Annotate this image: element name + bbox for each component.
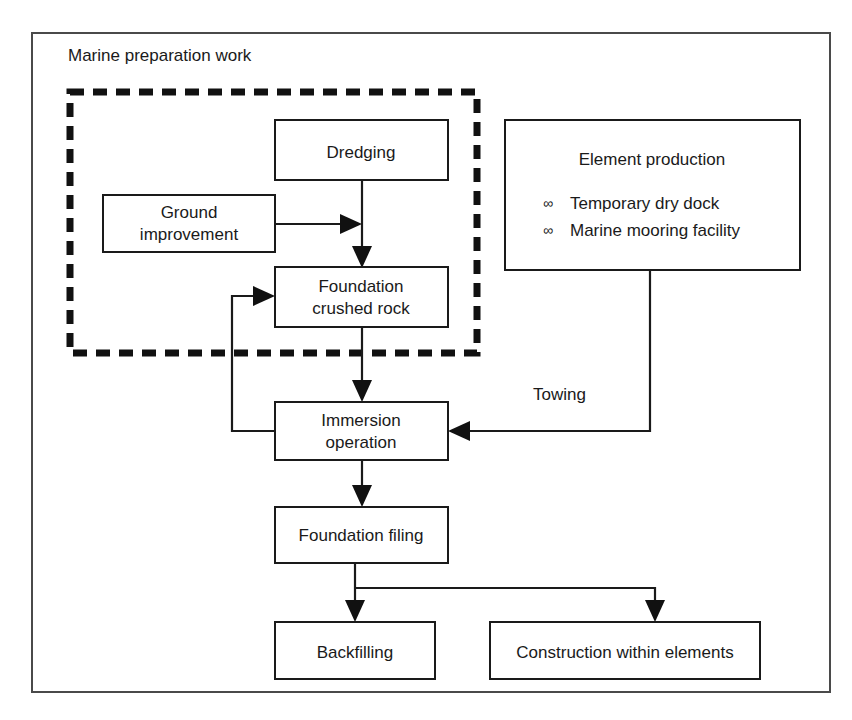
process-flow-diagram: Marine preparation work Towing: [0, 0, 852, 720]
node-ground-improvement-label-line2: improvement: [140, 225, 239, 244]
node-element-production-item-2: Marine mooring facility: [570, 221, 741, 240]
node-dredging-label: Dredging: [327, 143, 396, 162]
diagram-canvas: Marine preparation work Towing: [0, 0, 852, 720]
infinity-bullet-icon-2: ∞: [543, 222, 553, 238]
section-title: Marine preparation work: [68, 46, 252, 65]
node-foundation-crushed-rock-label-line2: crushed rock: [312, 299, 410, 318]
node-immersion-operation-label-line1: Immersion: [321, 411, 400, 430]
node-foundation-crushed-rock-label-line1: Foundation: [318, 277, 403, 296]
node-immersion-operation-label-line2: operation: [326, 433, 397, 452]
node-foundation-filing-label: Foundation filing: [299, 526, 424, 545]
node-ground-improvement-label-line1: Ground: [161, 203, 218, 222]
node-backfilling-label: Backfilling: [317, 643, 394, 662]
edge-label-towing: Towing: [533, 385, 586, 404]
node-element-production-title: Element production: [579, 150, 725, 169]
infinity-bullet-icon: ∞: [543, 195, 553, 211]
node-construction-within-elements-label: Construction within elements: [516, 643, 733, 662]
node-foundation-crushed-rock[interactable]: [275, 267, 448, 327]
node-element-production-item-1: Temporary dry dock: [570, 194, 720, 213]
